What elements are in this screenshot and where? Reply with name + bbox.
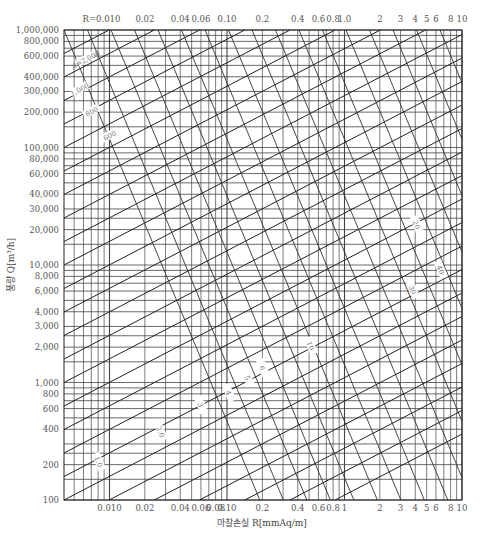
- y-tick-label: 200: [43, 460, 59, 470]
- y-tick-label: 1,000,000: [16, 25, 59, 35]
- x-tick-top-label: 0.02: [135, 14, 154, 24]
- velocity-line: [393, 30, 462, 196]
- velocity-line: [346, 30, 462, 308]
- diameter-line: [64, 129, 462, 336]
- line-label: 1,000: [69, 82, 90, 98]
- x-axis-top-ticks: R=0.0100.020.040.060.100.20.40.60.81.023…: [83, 14, 468, 24]
- x-tick-top-label: 0.06: [191, 14, 210, 24]
- x-tick-bottom-label: 5: [424, 503, 429, 513]
- diameter-line: [64, 246, 462, 453]
- x-tick-top-label: R=0.010: [83, 14, 121, 24]
- y-tick-label: 60,000: [29, 169, 59, 179]
- y-tick-label: 40,000: [29, 189, 59, 199]
- grid-lines: [64, 30, 462, 500]
- x-tick-top-label: 1.0: [338, 14, 352, 24]
- y-tick-label: 100: [43, 495, 59, 505]
- x-tick-bottom-label: 0.2: [256, 503, 270, 513]
- y-tick-label: 4,000: [35, 307, 59, 317]
- y-tick-label: 3,000: [35, 321, 59, 331]
- y-tick-label: 200,000: [24, 107, 59, 117]
- y-tick-label: 2,000: [35, 342, 59, 352]
- y-tick-label: 6,000: [35, 286, 59, 296]
- y-tick-label: 600,000: [24, 51, 59, 61]
- x-tick-bottom-label: 0.4: [291, 503, 305, 513]
- y-tick-label: 80,000: [29, 154, 59, 164]
- velocity-line: [323, 30, 462, 365]
- x-tick-bottom-label: 0.6: [312, 503, 326, 513]
- y-tick-label: 10,000: [29, 260, 59, 270]
- x-tick-bottom-label: 0.8: [326, 503, 340, 513]
- x-tick-top-label: 0.10: [218, 14, 237, 24]
- x-tick-bottom-label: 3: [398, 503, 403, 513]
- diameter-line: [64, 58, 462, 265]
- diameter-line: [64, 223, 462, 430]
- x-tick-bottom-label: 4: [413, 503, 418, 513]
- x-tick-bottom-label: 6: [433, 503, 438, 513]
- y-tick-label: 1,000: [35, 378, 59, 388]
- y-tick-label: 800: [43, 389, 59, 399]
- diameter-line: [154, 340, 462, 500]
- x-tick-top-label: 0.2: [256, 14, 270, 24]
- x-axis-title: 마찰손실 R[mmAq/m]: [217, 518, 307, 528]
- x-tick-bottom-label: 10: [457, 503, 468, 513]
- x-tick-top-label: 10: [457, 14, 468, 24]
- friction-loss-chart: 1,000,000800,000600,000400,000300,000200…: [0, 0, 482, 546]
- y-tick-label: 400,000: [24, 72, 59, 82]
- diameter-line: [64, 293, 462, 500]
- line-labels: 1.02.0345610203040d=2,0001,000800600: [69, 49, 448, 471]
- x-tick-top-label: 0.6: [312, 14, 326, 24]
- velocity-line: [299, 30, 462, 421]
- y-tick-label: 400: [43, 424, 59, 434]
- y-tick-label: 30,000: [29, 204, 59, 214]
- x-tick-bottom-label: 1: [342, 503, 347, 513]
- x-tick-top-label: 0.04: [171, 14, 190, 24]
- y-tick-label: 20,000: [29, 225, 59, 235]
- y-tick-label: 8,000: [35, 271, 59, 281]
- x-tick-top-label: 0.4: [291, 14, 305, 24]
- y-axis-ticks: 1,000,000800,000600,000400,000300,000200…: [16, 25, 59, 505]
- y-axis-title: 풍량 Q[m³/h]: [5, 238, 16, 292]
- x-tick-top-label: 2: [377, 14, 382, 24]
- diameter-line: [64, 30, 426, 218]
- x-tick-top-label: 5: [424, 14, 429, 24]
- x-axis-bottom-ticks: 0.0100.020.040.060.080.100.20.40.60.8123…: [97, 503, 467, 513]
- x-tick-top-label: 8: [448, 14, 453, 24]
- x-tick-bottom-label: 2: [377, 503, 382, 513]
- velocity-line: [276, 30, 462, 478]
- x-tick-bottom-label: 8: [448, 503, 453, 513]
- x-tick-bottom-label: 0.02: [135, 503, 154, 513]
- diameter-line: [245, 387, 462, 500]
- x-tick-top-label: 4: [413, 14, 418, 24]
- y-tick-label: 600: [43, 404, 59, 414]
- x-tick-bottom-label: 0.04: [171, 503, 190, 513]
- x-tick-top-label: 3: [398, 14, 403, 24]
- x-tick-bottom-label: 0.10: [218, 503, 237, 513]
- x-tick-bottom-label: 0.010: [97, 503, 121, 513]
- y-tick-label: 800,000: [24, 36, 59, 46]
- y-tick-label: 100,000: [24, 143, 59, 153]
- x-tick-top-label: 6: [433, 14, 438, 24]
- y-tick-label: 300,000: [24, 86, 59, 96]
